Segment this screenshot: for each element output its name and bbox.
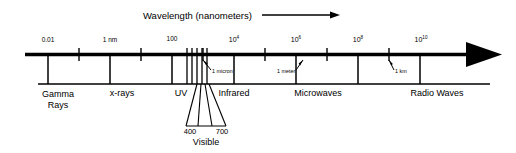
tick-label-1nm: 1 nm: [103, 37, 117, 44]
band-label-gamma-rays-line2: Rays: [42, 100, 74, 111]
tick-label-10e10: 1010: [415, 36, 428, 43]
spectrum-vector-layer: [0, 0, 516, 153]
electromagnetic-spectrum-diagram: Wavelength (nanometers) 0.01 1 nm 100 10…: [0, 0, 516, 153]
tick-label-10e8-base: 10: [353, 36, 361, 43]
band-label-microwaves: Microwaves: [294, 89, 342, 98]
band-label-gamma-rays: Gamma Rays: [42, 89, 74, 112]
spectrum-arrowhead-icon: [466, 42, 502, 67]
tick-label-0: 0.01: [42, 37, 55, 44]
band-label-infrared: Infrared: [218, 89, 249, 98]
annotation-1-micron: 1 micron: [212, 69, 233, 74]
band-label-radio-waves: Radio Waves: [410, 89, 463, 98]
tick-label-10e8-exponent: 8: [361, 35, 364, 40]
tick-label-100: 100: [167, 36, 178, 43]
annotation-1-km: 1 km: [395, 69, 407, 74]
band-label-gamma-rays-line1: Gamma: [42, 89, 74, 100]
tick-label-10e6: 106: [291, 36, 301, 43]
tick-label-10e6-exponent: 6: [299, 35, 302, 40]
tick-label-10e8: 108: [353, 36, 363, 43]
tick-label-10e10-exponent: 10: [422, 35, 427, 40]
band-label-uv: UV: [175, 89, 188, 98]
tick-label-10e10-base: 10: [415, 36, 423, 43]
visible-min-label: 400: [184, 128, 197, 136]
visible-max-label: 700: [216, 128, 229, 136]
visible-caption: Visible: [193, 138, 219, 147]
tick-label-10e4-exponent: 4: [237, 35, 240, 40]
annotation-1-meter: 1 meter: [277, 69, 295, 74]
arrow-right-icon: [262, 12, 340, 19]
major-tick-group: [48, 55, 420, 85]
tick-label-10e4-base: 10: [229, 36, 237, 43]
band-label-x-rays: x-rays: [110, 89, 135, 98]
tick-label-10e6-base: 10: [291, 36, 299, 43]
chart-title: Wavelength (nanometers): [143, 11, 252, 21]
tick-label-10e4: 104: [229, 36, 239, 43]
